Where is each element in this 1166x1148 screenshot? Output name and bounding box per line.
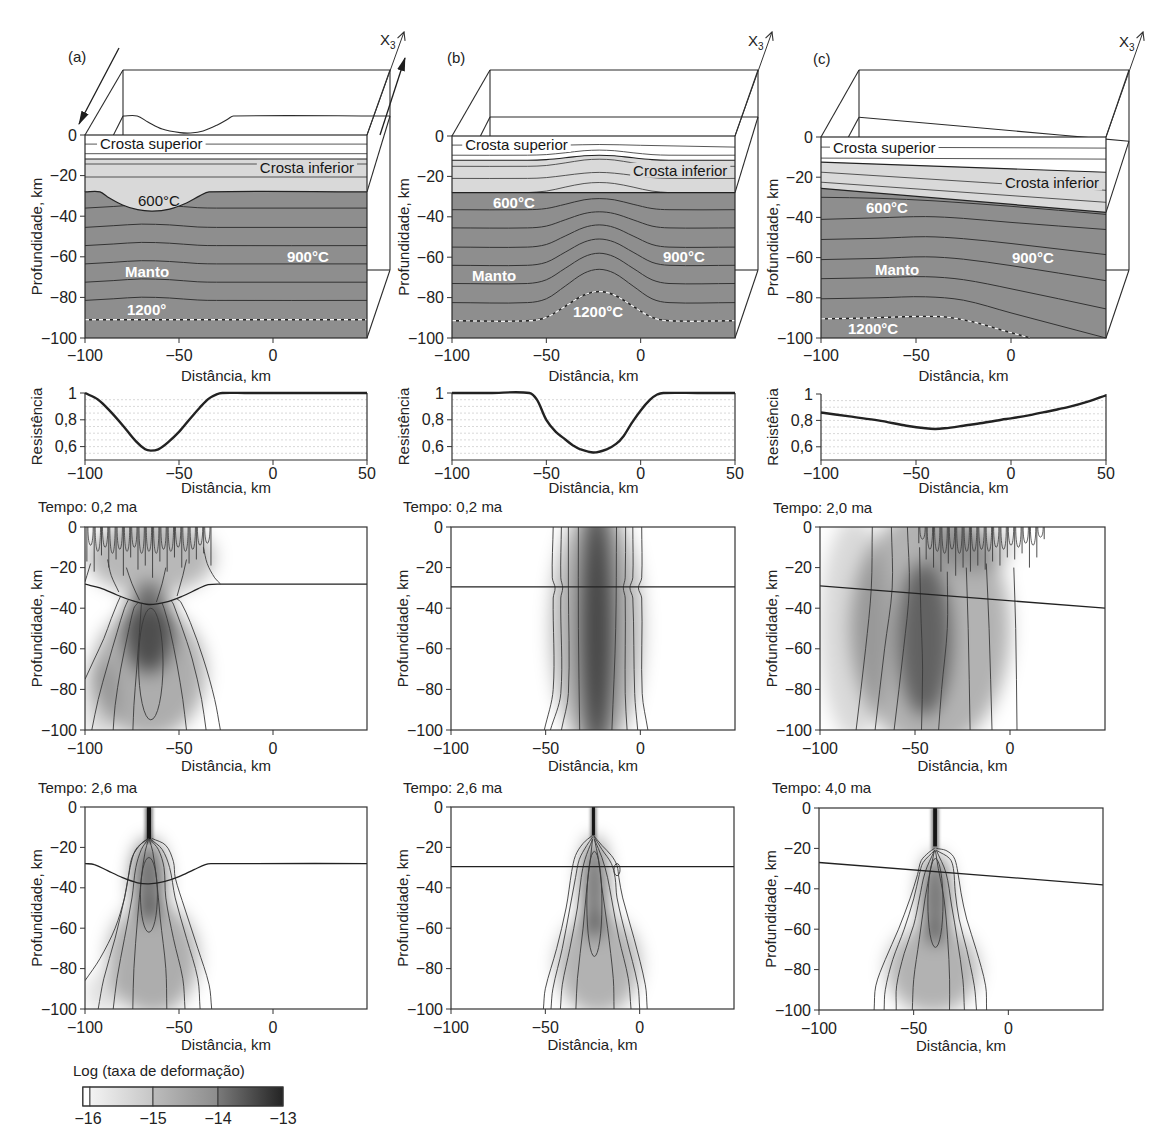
x-tick-label: −100 [67,347,103,364]
y-tick-label: −60 [785,640,812,657]
x-axis-title: Distância, km [181,1036,271,1053]
x-tick-label: −100 [67,1019,103,1036]
y-tick-label: 0 [802,800,811,817]
y-tick-label: −40 [784,880,811,897]
layer-label: 900°C [1012,249,1054,266]
y-tick-label: −40 [417,208,444,225]
layer-label: Crosta inferior [633,162,727,179]
x-tick-label: 0 [269,740,278,757]
x-tick-label: −50 [533,347,560,364]
x3-axis-label: X3 [380,31,396,51]
strain-rate-contour [85,564,91,582]
x-tick-label: 0 [636,347,645,364]
strain-rate-contour [1014,568,1017,730]
y-tick-label: −80 [416,960,443,977]
column-a: (a) X3 Crosta superiorCrosta inferior600… [28,31,405,1053]
layer-label: Crosta inferior [260,159,354,176]
surface-loop [1016,527,1021,547]
axes: 10,80,6−100−50050Distância, kmResistênci… [764,386,1115,497]
y-tick-label: −20 [50,839,77,856]
panel-label: (a) [68,48,86,65]
y-tick-label: −80 [50,289,77,306]
y-tick-label: −40 [416,879,443,896]
y-tick-label: −20 [416,559,443,576]
strain-rate-map-b-early: 0−20−40−60−80−100−100−500Distância, kmPr… [394,503,735,774]
x3-subscript: 3 [1129,42,1135,53]
figure: (a) X3 Crosta superiorCrosta inferior600… [0,0,1166,1148]
y-tick-label: −100 [775,1002,811,1019]
layer-label: 600°C [138,192,180,209]
x3-main: X [1119,33,1129,50]
layer-label: 600°C [866,199,908,216]
layer-label: 900°C [287,248,329,265]
strain-rate-map-a-late: 0−20−40−60−80−100−100−500Distância, kmPr… [28,799,367,1054]
y-tick-label: −100 [408,330,444,347]
strength-plot-c: 10,80,6−100−50050Distância, kmResistênci… [764,386,1115,497]
strength-plot-b: 10,80,6−100−50050Distância, kmResistênci… [395,385,744,497]
x-tick-label: 0 [269,1019,278,1036]
layer-label: Crosta superior [465,136,568,153]
panel-label: (b) [447,49,465,66]
layer-label: 900°C [663,248,705,265]
moho-line [819,863,1103,885]
column-c: (c) X3 Crosta superiorCrosta inferior600… [762,32,1143,1054]
y-tick-label: −20 [785,559,812,576]
block-front-face: Crosta superiorCrosta inferior600°CManto… [821,137,1106,338]
x3-subscript: 3 [758,41,764,52]
strain-rate-field [451,807,734,1015]
y-tick-label: 0 [68,519,77,536]
strain-rate-shading [557,837,640,1015]
y-tick-label: 1 [68,385,77,402]
right-face-moho [735,117,758,193]
y-axis-title: Profundidade, km [28,178,45,296]
block-diagram-c: Crosta superiorCrosta inferior600°CManto… [764,32,1143,384]
colorbar-segment [218,1087,283,1106]
colorbar-segment [83,1087,90,1106]
colorbar-tick-label: −13 [269,1110,296,1127]
x3-axis-label: X3 [748,32,764,52]
surface-loop [1038,527,1043,537]
panel-label: (c) [813,50,831,67]
x-tick-label: −50 [165,1019,192,1036]
x-tick-label: −50 [165,740,192,757]
y-axis-title: Profundidade, km [394,570,411,688]
y-tick-label: 0 [434,519,443,536]
y-tick-label: −80 [785,681,812,698]
y-axis-title: Profundidade, km [763,570,780,688]
time-label: Tempo: 4,0 ma [772,779,872,796]
y-tick-label: 0,8 [791,412,813,429]
x-tick-label: −100 [67,465,103,482]
x-tick-label: 0 [1006,740,1015,757]
x-tick-label: −100 [434,465,470,482]
colorbar-segment [90,1087,153,1106]
x-tick-label: 50 [726,465,744,482]
y-tick-label: −60 [784,921,811,938]
layer-label: Manto [875,261,919,278]
colorbar-legend: Log (taxa de deformação) −16−15−14−13 [73,1062,297,1127]
y-tick-label: −40 [786,209,813,226]
y-tick-label: −60 [50,640,77,657]
layer-label: Crosta superior [100,135,203,152]
y-axis-title: Profundidade, km [28,849,45,967]
axes: 0−20−40−60−80−100−100−500Distância, kmPr… [762,800,1013,1055]
block-edge [367,270,390,338]
block-edge [1106,270,1129,338]
x-tick-label: −50 [165,347,192,364]
x-axis-title: Distância, km [547,1036,637,1053]
y-tick-label: 0 [68,799,77,816]
y-tick-label: −80 [50,681,77,698]
y-tick-label: −80 [50,960,77,977]
strength-curve [85,393,367,451]
y-tick-label: 0,6 [55,438,77,455]
y-axis-title: Profundidade, km [764,179,781,297]
y-tick-label: −20 [417,168,444,185]
y-tick-label: −20 [416,839,443,856]
time-label: Tempo: 2,6 ma [38,779,138,796]
x3-main: X [380,31,390,48]
y-axis-title: Profundidade, km [762,850,779,968]
strength-curve [452,392,735,452]
y-tick-label: −20 [786,169,813,186]
y-tick-label: 0 [434,799,443,816]
y-tick-label: 0 [804,129,813,146]
colorbar-title: Log (taxa de deformação) [73,1062,245,1079]
